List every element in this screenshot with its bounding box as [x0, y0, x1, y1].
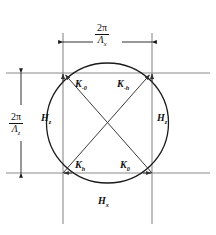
vertical-dimension-denominator: Λz [9, 124, 23, 137]
grating-label-hz-left: Hz [41, 113, 51, 125]
vertical-dimension-numerator: 2π [9, 112, 23, 123]
vertical-dimension-label: 2π Λz [9, 112, 23, 136]
grating-label-hx-bottom: Hx [98, 196, 109, 208]
vector-label-k-minus-0: K-0 [75, 79, 87, 91]
vector-label-k-h: Kh [75, 160, 85, 172]
grating-label-hz-right: Hz [157, 113, 167, 125]
reciprocal-space-diagram: 2π Λx 2π Λz K-0 K-h Kh K0 Hz Hz Hx [0, 0, 216, 235]
vector-label-k-minus-h: K-h [117, 79, 129, 91]
horizontal-dimension-numerator: 2π [95, 23, 109, 34]
vector-label-k-0: K0 [120, 160, 130, 172]
horizontal-dimension-label: 2π Λx [95, 23, 109, 47]
horizontal-dimension-denominator: Λx [95, 35, 109, 48]
